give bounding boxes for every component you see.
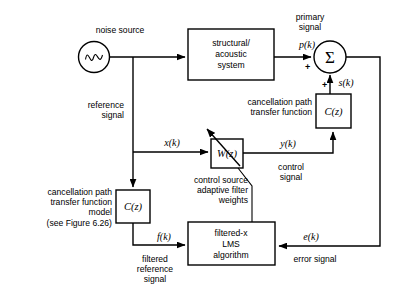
noise-source-label: noise source (96, 25, 145, 35)
cancellation-path-model-label-1: cancellation path (48, 187, 113, 197)
sum-sign-secondary: + (322, 80, 327, 90)
reference-signal-label-2: signal (102, 110, 125, 120)
cancellation-path-label-1: cancellation path (248, 97, 313, 107)
cancellation-path-model-transfer: C(z) (124, 201, 143, 213)
adaptive-filter-label-1: control source (194, 175, 248, 185)
plant-label-3: system (217, 60, 244, 70)
adaptive-filter-label-2: adaptive filter (197, 185, 248, 195)
primary-signal-label-2: signal (299, 22, 322, 32)
cancellation-path-label-2: transfer function (250, 107, 312, 117)
filtered-reference-label-1: filtered (142, 254, 168, 264)
control-signal-symbol: y(k) (279, 138, 296, 150)
lms-label-3: algorithm (213, 250, 248, 260)
filtered-reference-label-2: reference (137, 264, 174, 274)
cancellation-path-model-label-2: transfer function (50, 197, 112, 207)
block-diagram: noise source reference signal structural… (0, 0, 401, 301)
primary-signal-label-1: primary (296, 12, 325, 22)
lms-label-1: filtered-x (215, 228, 249, 238)
plant-label-1: structural/ (212, 38, 250, 48)
lms-label-2: LMS (222, 239, 240, 249)
reference-signal-label-1: reference (88, 100, 125, 110)
adaptive-filter-label-3: weights (218, 195, 248, 205)
filtered-reference-label-3: signal (144, 274, 167, 284)
sigma-icon: Σ (325, 48, 335, 67)
primary-signal-symbol: p(k) (298, 39, 316, 51)
filtered-reference-symbol: f(k) (157, 231, 172, 243)
error-signal-symbol: e(k) (303, 231, 319, 243)
reference-signal-symbol: x(k) (163, 137, 180, 149)
cancellation-path-model-label-3: model (89, 207, 112, 217)
adaptive-filter-transfer: W(z) (217, 148, 237, 160)
control-signal-label-2: signal (280, 172, 303, 182)
cancellation-path-transfer: C(z) (324, 106, 343, 118)
error-signal-label: error signal (294, 254, 337, 264)
control-signal-label-1: control (278, 162, 304, 172)
cancelling-signal-symbol: s(k) (339, 77, 355, 89)
cancellation-path-model-label-4: (see Figure 6.26) (47, 218, 113, 228)
sum-sign-primary: + (305, 62, 310, 72)
plant-label-2: acoustic (215, 49, 247, 59)
